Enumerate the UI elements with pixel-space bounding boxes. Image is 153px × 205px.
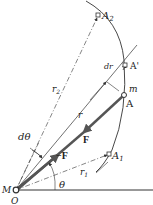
label-A2: A2 [101, 10, 114, 23]
force-neg-F-vector [18, 155, 58, 188]
label-A: A [125, 98, 134, 109]
label-A-prime: A' [129, 61, 139, 71]
label-theta: θ [59, 179, 65, 190]
label-r: r [78, 110, 83, 120]
r-dimension-arrow [90, 82, 106, 100]
point-A1 [107, 152, 111, 156]
label-F: F [83, 134, 89, 145]
central-force-diagram: A2 dr A' m A r r2 F −F A1 r1 dθ θ M O [0, 0, 153, 205]
mass-M-at-O [13, 187, 19, 193]
label-dr: dr [104, 62, 114, 71]
r-dimension-tick [107, 82, 119, 91]
label-dtheta: dθ [18, 131, 30, 142]
dtheta-tick [30, 148, 42, 157]
label-r1: r1 [80, 167, 88, 178]
point-A-prime [123, 63, 127, 67]
point-A2 [96, 13, 100, 17]
label-neg-F: −F [56, 150, 68, 161]
radius-r2-line [16, 18, 97, 190]
label-r2: r2 [52, 84, 60, 95]
label-m: m [129, 84, 138, 94]
mass-m-at-A [122, 93, 127, 98]
radial-line-r [16, 45, 137, 190]
label-O: O [11, 196, 19, 205]
dtheta-arc [32, 150, 42, 158]
label-A1: A1 [111, 150, 124, 163]
label-M: M [1, 185, 12, 195]
theta-arc [49, 163, 55, 190]
orbit-path [86, 1, 125, 172]
a1-tick [96, 162, 108, 173]
